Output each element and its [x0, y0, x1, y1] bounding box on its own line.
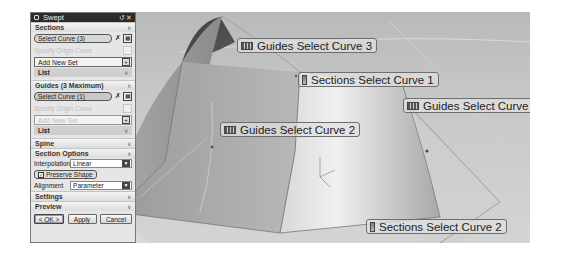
dialog-title: Swept [43, 13, 118, 22]
chevron-up-icon: ∧ [127, 24, 131, 31]
guides-add-new-set-button[interactable]: Add New Set + [34, 115, 132, 125]
preserve-shape-checkbox[interactable]: ✓ Preserve Shape [34, 170, 97, 179]
section-options-group-header[interactable]: Section Options ∧ [31, 148, 135, 158]
checkbox-checked-icon: ✓ [38, 172, 44, 178]
cancel-button[interactable]: Cancel [100, 214, 132, 224]
section-curve-icon [302, 75, 307, 85]
guide-curve-icon [241, 42, 253, 50]
apply-button[interactable]: Apply [68, 214, 97, 224]
viewport-label-sections-curve-2: Sections Select Curve 2 [366, 219, 507, 234]
dialog-titlebar[interactable]: Swept ↺ ✕ [31, 13, 135, 22]
close-icon[interactable]: ✕ [125, 14, 132, 22]
guide-curve-icon [407, 102, 419, 110]
interpolation-select[interactable]: Linear ▼ [70, 159, 132, 168]
sections-specify-origin-curve: Specify Origin Curve [34, 47, 123, 54]
viewport-label-guides-curve-3: Guides Select Curve 3 [237, 38, 377, 53]
chevron-down-icon: ∨ [124, 127, 128, 134]
deselect-icon[interactable]: ✗ [114, 92, 122, 100]
guides-group-header[interactable]: Guides (3 Maximum) ∧ [31, 80, 135, 90]
origin-curve-icon [123, 104, 132, 113]
dropdown-arrow-icon: ▼ [122, 160, 130, 167]
dropdown-arrow-icon: ▼ [122, 182, 130, 189]
sections-select-curve-button[interactable]: Select Curve (3) [34, 34, 112, 43]
settings-group-header[interactable]: Settings ∨ [31, 191, 135, 201]
curve-rule-icon[interactable]: ▦ [123, 92, 132, 101]
origin-curve-icon [123, 46, 132, 55]
swept-dialog: Swept ↺ ✕ Sections ∧ Select Curve (3) ✗ … [30, 12, 136, 243]
viewport-label-guides-curve-2: Guides Select Curve 2 [220, 122, 360, 137]
curve-rule-icon[interactable]: ▦ [123, 34, 132, 43]
chevron-down-icon: ∨ [127, 140, 131, 147]
guide-curve-icon [224, 126, 236, 134]
guides-specify-origin-curve: Specify Origin Curve [34, 105, 123, 112]
sections-group-header[interactable]: Sections ∧ [31, 22, 135, 32]
dialog-menu-icon[interactable] [34, 15, 39, 20]
add-set-icon: + [122, 116, 130, 124]
viewport-label-guides-curve-1: Guides Select Curve 1 [403, 98, 530, 113]
viewport-label-sections-curve-1: Sections Select Curve 1 [298, 72, 439, 87]
reset-icon[interactable]: ↺ [118, 14, 125, 22]
section-curve-icon [370, 222, 375, 232]
deselect-icon[interactable]: ✗ [114, 34, 122, 42]
chevron-up-icon: ∧ [127, 150, 131, 157]
chevron-down-icon: ∨ [124, 69, 128, 76]
alignment-label: Alignment [34, 182, 70, 189]
spine-group-header[interactable]: Spine ∨ [31, 138, 135, 148]
guides-list-toggle[interactable]: List ∨ [34, 126, 132, 135]
chevron-down-icon: ∨ [127, 193, 131, 200]
sections-list-toggle[interactable]: List ∨ [34, 68, 132, 77]
preview-group-header[interactable]: Preview ∨ [31, 201, 135, 211]
interpolation-label: Interpolation [34, 160, 70, 167]
sections-add-new-set-button[interactable]: Add New Set + [34, 57, 132, 67]
guides-select-curve-button[interactable]: Select Curve (1) [34, 92, 112, 101]
add-set-icon: + [122, 58, 130, 66]
ok-button[interactable]: < OK > [34, 214, 64, 224]
chevron-up-icon: ∧ [127, 82, 131, 89]
chevron-down-icon: ∨ [127, 203, 131, 210]
alignment-select[interactable]: Parameter ▼ [70, 181, 132, 190]
